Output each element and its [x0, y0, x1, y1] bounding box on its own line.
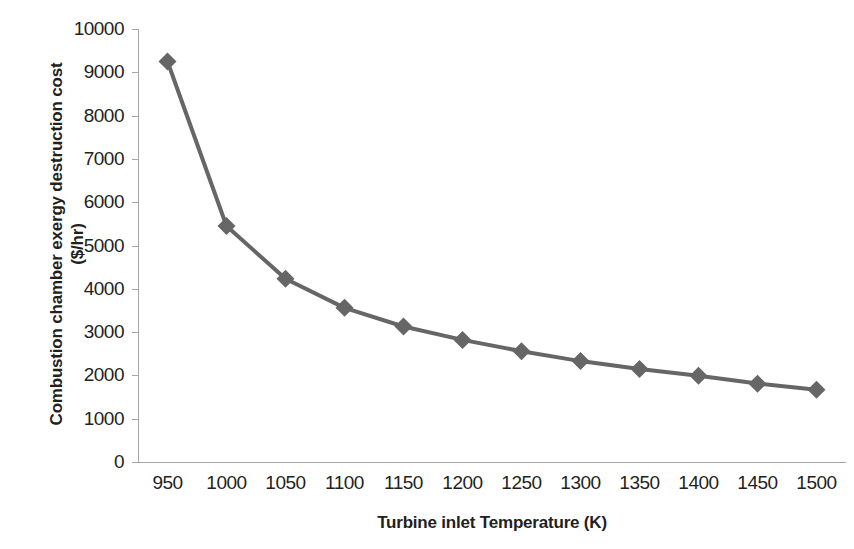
- x-axis-tick-label: 1100: [325, 472, 364, 494]
- x-axis-title: Turbine inlet Temperature (K): [138, 513, 846, 533]
- x-axis-tick-label: 1500: [796, 472, 836, 494]
- x-axis-tick-label: 950: [152, 472, 182, 494]
- data-point-marker: [631, 360, 649, 378]
- x-axis-tick-label: 1350: [619, 472, 659, 494]
- data-point-marker: [690, 367, 708, 385]
- data-point-marker: [749, 375, 767, 393]
- x-axis-tick-label: 1000: [206, 472, 246, 494]
- x-axis-tick-label: 1050: [265, 472, 305, 494]
- data-point-marker: [572, 352, 590, 370]
- data-point-marker: [454, 331, 472, 349]
- data-point-marker: [336, 299, 354, 317]
- data-point-marker: [395, 317, 413, 335]
- x-axis-tick-label: 1150: [384, 472, 423, 494]
- x-axis-tick-label: 1400: [678, 472, 718, 494]
- x-axis-tick-label: 1300: [560, 472, 600, 494]
- series-line: [168, 62, 817, 390]
- data-point-marker: [159, 52, 177, 70]
- x-axis-tick-label: 1200: [442, 472, 482, 494]
- x-axis-tick-label: 1450: [737, 472, 777, 494]
- line-series-plot: [0, 0, 854, 549]
- data-point-marker: [808, 381, 826, 399]
- chart-container: Combustion chamber exergy destruction co…: [0, 0, 854, 549]
- x-axis-tick-label: 1250: [501, 472, 541, 494]
- data-point-marker: [513, 342, 531, 360]
